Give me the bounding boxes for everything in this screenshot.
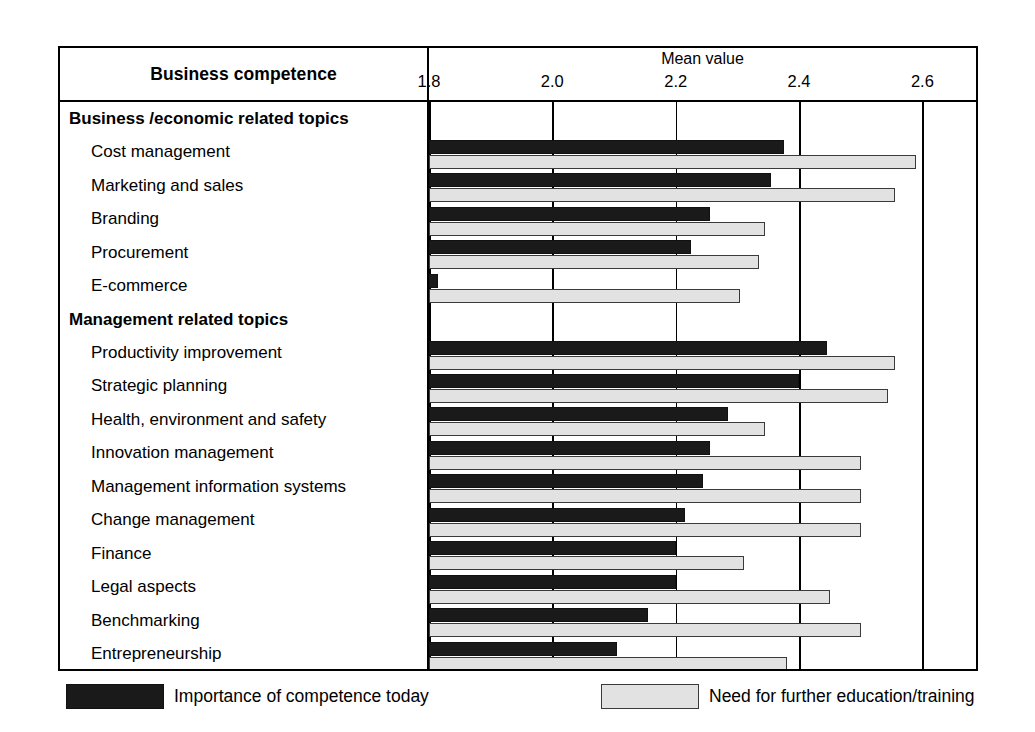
legend-label-training: Need for further education/training xyxy=(709,686,975,707)
header-axis-cell: Mean value 1.82.02.22.42.6 xyxy=(429,48,976,100)
bar-training-change-management xyxy=(429,523,861,537)
x-tick-label-2-0: 2.0 xyxy=(541,72,564,91)
bar-training-finance xyxy=(429,556,744,570)
bar-importance-marketing-and-sales xyxy=(429,173,771,187)
bar-training-procurement xyxy=(429,255,759,269)
row-label-innovation-management: Innovation management xyxy=(60,437,427,470)
bar-training-entrepreneurship xyxy=(429,657,787,669)
bar-training-innovation-management xyxy=(429,456,861,470)
row-label-entrepreneurship: Entrepreneurship xyxy=(60,638,427,671)
bar-importance-branding xyxy=(429,207,710,221)
plot-area xyxy=(429,102,976,669)
group-label-business-economic-related-topics: Business /economic related topics xyxy=(60,102,427,135)
bar-training-management-information-systems xyxy=(429,489,861,503)
row-label-management-information-systems: Management information systems xyxy=(60,470,427,503)
row-label-finance: Finance xyxy=(60,537,427,570)
bar-importance-innovation-management xyxy=(429,441,710,455)
x-tick-label-1-8: 1.8 xyxy=(418,72,441,91)
row-label-cost-management: Cost management xyxy=(60,135,427,168)
bar-training-productivity-improvement xyxy=(429,356,895,370)
row-label-legal-aspects: Legal aspects xyxy=(60,571,427,604)
bar-importance-e-commerce xyxy=(429,274,438,288)
bar-training-legal-aspects xyxy=(429,590,830,604)
chart-container: Business competence Mean value 1.82.02.2… xyxy=(0,0,1035,732)
x-tick-label-2-4: 2.4 xyxy=(788,72,811,91)
chart-legend: Importance of competence today Need for … xyxy=(58,684,978,718)
gridline-2-6 xyxy=(922,102,924,669)
bar-training-branding xyxy=(429,222,765,236)
chart-body: Business /economic related topicsCost ma… xyxy=(60,102,976,669)
bar-training-marketing-and-sales xyxy=(429,188,895,202)
row-label-productivity-improvement: Productivity improvement xyxy=(60,336,427,369)
legend-item-training: Need for further education/training xyxy=(601,684,975,709)
row-label-change-management: Change management xyxy=(60,504,427,537)
gridline-2-4 xyxy=(799,102,801,669)
legend-item-importance: Importance of competence today xyxy=(66,684,429,709)
row-label-benchmarking: Benchmarking xyxy=(60,604,427,637)
bar-importance-finance xyxy=(429,541,676,555)
category-labels-column: Business /economic related topicsCost ma… xyxy=(60,102,429,669)
legend-label-importance: Importance of competence today xyxy=(174,686,429,707)
chart-header: Business competence Mean value 1.82.02.2… xyxy=(60,48,976,102)
bar-importance-entrepreneurship xyxy=(429,642,617,656)
page-title: Business competence xyxy=(150,64,337,85)
row-label-e-commerce: E-commerce xyxy=(60,269,427,302)
bar-importance-management-information-systems xyxy=(429,474,703,488)
legend-swatch-light-icon xyxy=(601,684,699,709)
bar-importance-cost-management xyxy=(429,140,784,154)
row-label-branding: Branding xyxy=(60,202,427,235)
bar-importance-legal-aspects xyxy=(429,575,676,589)
chart-frame: Business competence Mean value 1.82.02.2… xyxy=(58,46,978,671)
bar-training-benchmarking xyxy=(429,623,861,637)
row-label-marketing-and-sales: Marketing and sales xyxy=(60,169,427,202)
x-tick-label-2-6: 2.6 xyxy=(911,72,934,91)
bar-importance-procurement xyxy=(429,240,691,254)
bar-training-strategic-planning xyxy=(429,389,888,403)
bar-importance-productivity-improvement xyxy=(429,341,827,355)
bar-training-e-commerce xyxy=(429,289,740,303)
row-label-health-environment-and-safety: Health, environment and safety xyxy=(60,403,427,436)
bar-training-health-environment-and-safety xyxy=(429,422,765,436)
bar-training-cost-management xyxy=(429,155,916,169)
bar-importance-health-environment-and-safety xyxy=(429,407,728,421)
bar-importance-benchmarking xyxy=(429,608,648,622)
bar-importance-strategic-planning xyxy=(429,374,799,388)
row-label-procurement: Procurement xyxy=(60,236,427,269)
x-tick-label-2-2: 2.2 xyxy=(664,72,687,91)
legend-swatch-dark-icon xyxy=(66,684,164,709)
row-label-strategic-planning: Strategic planning xyxy=(60,370,427,403)
header-left-title-cell: Business competence xyxy=(60,48,429,100)
bar-importance-change-management xyxy=(429,508,685,522)
group-label-management-related-topics: Management related topics xyxy=(60,303,427,336)
axis-title: Mean value xyxy=(429,50,976,68)
